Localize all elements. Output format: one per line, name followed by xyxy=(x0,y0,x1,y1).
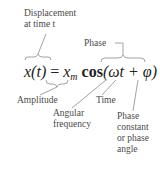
time-label: Time xyxy=(96,95,116,106)
phase-label: Phase xyxy=(84,38,106,49)
displacement-label-line1: Displacement xyxy=(24,8,76,19)
angular-frequency-line1: Angular xyxy=(53,108,91,119)
phase-constant-line2: constant xyxy=(117,122,149,133)
cos-function: cos xyxy=(82,63,103,80)
displacement-label: Displacement at time t xyxy=(24,8,76,30)
phase-constant-line1: Phase xyxy=(117,111,149,122)
amplitude-subscript: m xyxy=(70,71,77,82)
phase-constant-label: Phase constant or phase angle xyxy=(117,111,149,155)
equation-lhs: x(t) xyxy=(24,63,46,80)
phase-constant-line4: angle xyxy=(117,144,149,155)
angular-frequency-label: Angular frequency xyxy=(53,108,91,130)
amplitude-label: Amplitude xyxy=(17,95,58,106)
equation: x(t) = xm cos(ωt + φ) xyxy=(24,63,157,86)
equation-argument: (ωt + φ) xyxy=(103,63,157,80)
displacement-label-line2: at time t xyxy=(24,19,76,30)
angular-frequency-line2: frequency xyxy=(53,119,91,130)
phase-constant-line3: or phase xyxy=(117,133,149,144)
equation-equals: = xyxy=(50,63,59,80)
